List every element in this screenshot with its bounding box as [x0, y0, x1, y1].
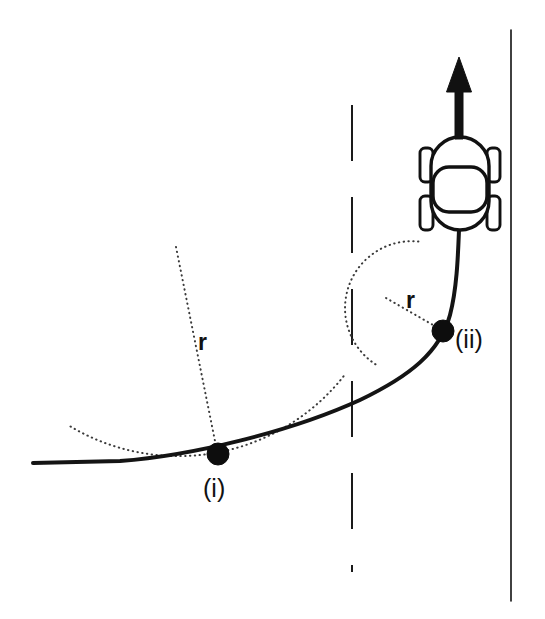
curvature-diagram-svg: r r (i) (ii): [0, 0, 545, 619]
road-inner-curve: [33, 230, 459, 463]
car-cabin: [433, 167, 487, 212]
diagram-canvas: r r (i) (ii): [0, 0, 545, 619]
radius-line-large: [176, 247, 217, 451]
point-marker-i: [207, 443, 229, 465]
point-marker-ii: [432, 320, 454, 342]
label-radius-small: r: [406, 287, 415, 313]
car-top-view: [420, 137, 500, 230]
arrow-glyph: [447, 57, 472, 139]
label-point-i: (i): [203, 474, 225, 502]
label-point-ii: (ii): [455, 325, 483, 353]
osculating-circle-large: [71, 375, 346, 457]
direction-of-travel-arrow: [447, 57, 472, 139]
label-radius-large: r: [198, 329, 207, 355]
